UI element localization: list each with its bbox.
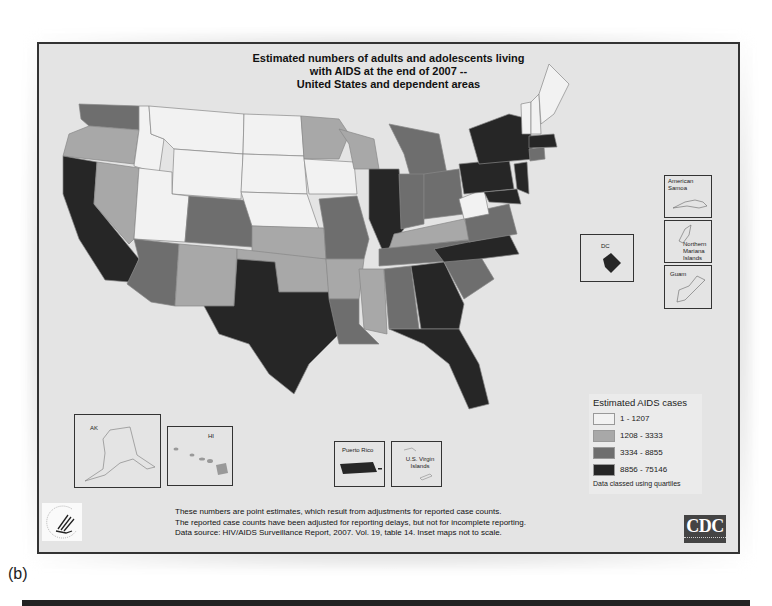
map-legend: Estimated AIDS cases 1 - 1207 1208 - 333… — [589, 394, 702, 494]
cdc-logo-subtitle — [684, 537, 726, 540]
footer-notes: These numbers are point estimates, which… — [175, 507, 526, 539]
hhs-eagle-icon — [42, 503, 82, 541]
puerto-rico-shape-icon — [335, 442, 386, 488]
american-samoa-shape-icon — [665, 176, 713, 219]
legend-swatch — [593, 413, 615, 425]
state-co — [185, 196, 254, 247]
footer-line-1: These numbers are point estimates, which… — [175, 507, 526, 518]
map-slide: Estimated numbers of adults and adolesce… — [37, 42, 740, 554]
legend-note: Data classed using quartiles — [593, 480, 681, 487]
state-me — [539, 64, 569, 124]
legend-swatch — [593, 430, 615, 442]
state-az — [127, 239, 179, 306]
state-mn — [301, 116, 349, 159]
inset-alaska: AK — [74, 414, 161, 488]
state-ar — [326, 259, 364, 299]
inset-dc: DC — [580, 234, 634, 282]
legend-label: 3334 - 8855 — [620, 448, 663, 457]
inset-northern-mariana: Northern Mariana Islands — [664, 220, 712, 263]
inset-american-samoa: American Samoa — [664, 175, 712, 218]
legend-swatch — [593, 447, 615, 459]
dc-shape-icon — [581, 235, 635, 283]
state-wy — [172, 149, 243, 199]
state-nm — [175, 244, 237, 306]
footer-line-3: Data source: HIV/AIDS Surveillance Repor… — [175, 528, 526, 539]
bottom-divider — [22, 600, 750, 606]
footer-line-2: The reported case counts have been adjus… — [175, 518, 526, 529]
hhs-logo — [42, 503, 82, 541]
state-md — [484, 189, 521, 204]
alaska-shape-icon — [75, 415, 162, 489]
state-ct — [529, 147, 545, 161]
state-ms — [359, 269, 387, 334]
legend-item: 1 - 1207 — [593, 412, 649, 425]
state-ia — [304, 159, 357, 194]
figure-label: (b) — [8, 565, 28, 583]
state-fl — [389, 329, 489, 409]
state-pa — [459, 159, 514, 194]
state-oh — [424, 169, 464, 219]
virgin-islands-shape-icon — [392, 442, 443, 488]
state-mo — [319, 196, 369, 259]
legend-item: 8856 - 75146 — [593, 463, 667, 476]
inset-puerto-rico: Puerto Rico — [334, 441, 385, 487]
northern-mariana-shape-icon — [665, 221, 713, 264]
state-mt — [149, 106, 244, 154]
state-sd — [241, 154, 307, 194]
state-in — [399, 174, 424, 229]
cdc-logo-text: CDC — [684, 516, 726, 537]
legend-item: 3334 - 8855 — [593, 446, 663, 459]
legend-swatch — [593, 464, 615, 476]
legend-label: 1208 - 3333 — [620, 431, 663, 440]
legend-item: 1208 - 3333 — [593, 429, 663, 442]
legend-label: 1 - 1207 — [620, 414, 649, 423]
state-ne — [241, 192, 319, 229]
hawaii-shape-icon — [168, 427, 234, 487]
inset-virgin-islands: U.S. Virgin Islands — [391, 441, 442, 487]
state-vt — [521, 102, 531, 134]
state-nd — [243, 114, 304, 156]
state-ma — [529, 134, 557, 148]
guam-shape-icon — [665, 266, 713, 310]
legend-title: Estimated AIDS cases — [593, 397, 687, 408]
cdc-logo: CDC — [684, 515, 726, 543]
inset-hawaii: HI — [167, 426, 233, 486]
inset-guam: Guam — [664, 265, 712, 309]
legend-label: 8856 - 75146 — [620, 465, 667, 474]
